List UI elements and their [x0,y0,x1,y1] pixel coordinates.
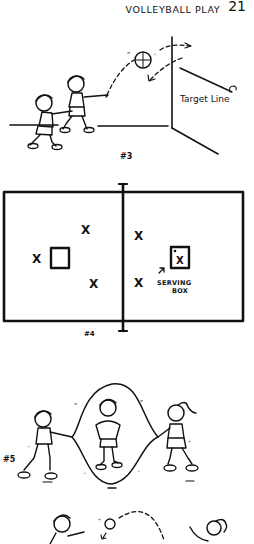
ball-icon [135,52,151,68]
position-marker: X [176,255,184,266]
serving-box-label: SERVING [157,279,191,287]
svg-text:": " [188,439,191,446]
jump-rope [72,384,158,484]
svg-text:": " [140,399,143,407]
figure-6-partial: " [50,512,227,544]
svg-text:BOX: BOX [172,287,188,295]
arrow-icon [159,268,164,273]
figure-3: Target Line " ' [10,37,236,161]
figure-number: #5 [3,455,16,464]
illustrations: Target Line " ' [0,0,254,544]
svg-text:": " [127,51,130,59]
position-marker: X [89,277,99,291]
child-figure [158,402,198,481]
svg-text:': ' [28,444,30,451]
figure-number: #4 [84,330,95,338]
target-line-label: Target Line [179,94,230,104]
figure-4: X X X X X X SERVING BOX #4 [4,184,243,338]
svg-text:": " [74,402,77,410]
player-square [51,248,69,268]
position-marker: X [134,229,144,243]
svg-text:': ' [84,471,86,478]
child-figure [96,399,122,469]
position-marker: X [32,252,42,266]
child-figure [28,95,72,150]
svg-text:': ' [138,469,140,476]
child-figure [18,411,72,482]
figure-5: " " ' " ' ' [3,384,198,488]
svg-text:": " [98,517,101,524]
child-figure [60,76,108,133]
ball-icon [105,519,115,529]
position-marker: X [134,276,144,290]
position-marker: X [81,223,91,237]
figure-number: #3 [120,152,132,161]
svg-text:': ' [154,52,156,59]
